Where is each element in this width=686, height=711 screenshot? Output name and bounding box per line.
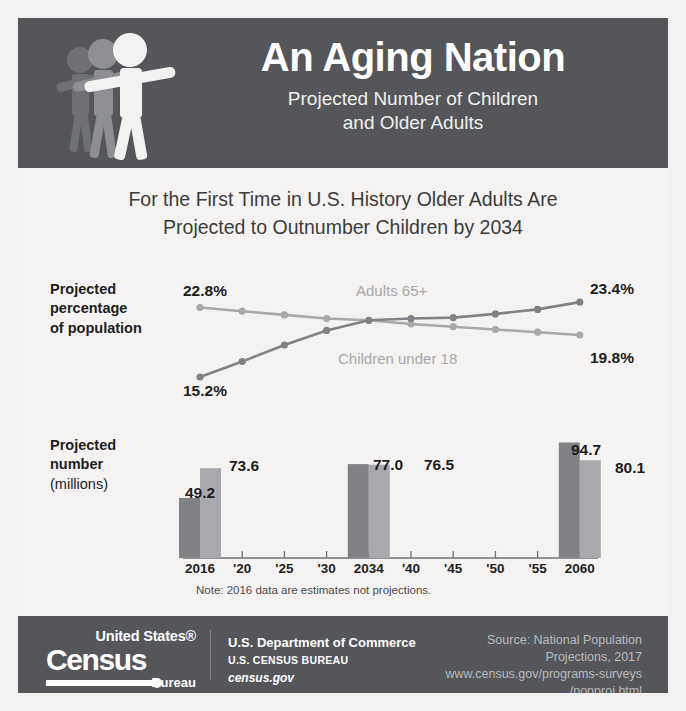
bar-label-1: Projected — [50, 436, 190, 455]
source-line-3: www.census.gov/programs-surveys — [445, 666, 642, 683]
logo-census-wordmark: Census — [46, 645, 196, 675]
x-tick-label-2060: 2060 — [550, 561, 610, 576]
subtitle-line-1: Projected Number of Children — [178, 87, 648, 111]
line-data-point — [196, 373, 203, 380]
line-data-point — [492, 310, 499, 317]
line-label-3: of population — [50, 319, 180, 338]
line-data-point — [239, 308, 246, 315]
headline-line-2: Projected to Outnumber Children by 2034 — [18, 214, 668, 242]
line-data-point — [281, 311, 288, 318]
bar-chart-section: Projected number (millions) 49.2 73.6 77… — [18, 418, 668, 588]
bar-value-2060-children: 80.1 — [615, 459, 645, 477]
line-data-point — [281, 341, 288, 348]
line-data-point — [365, 317, 372, 324]
line-data-point — [534, 329, 541, 336]
bar-2060-adults — [559, 443, 580, 559]
series-label-children: Children under 18 — [338, 350, 457, 367]
logo-bar-icon — [46, 680, 158, 686]
bar-value-2016-children: 73.6 — [229, 457, 259, 475]
bar-2016-adults — [179, 498, 200, 558]
logo-united-states: United States® — [46, 629, 196, 644]
line-chart-axis-label: Projected percentage of population — [50, 280, 180, 338]
bar-label-3: (millions) — [50, 475, 190, 494]
children-start-value: 15.2% — [183, 382, 227, 400]
line-data-point — [492, 326, 499, 333]
chart-note: Note: 2016 data are estimates not projec… — [196, 584, 431, 596]
footer-banner: United States® Census Bureau U.S. Depart… — [18, 616, 668, 693]
title-block: An Aging Nation Projected Number of Chil… — [178, 36, 648, 136]
bar-label-2: number — [50, 455, 190, 474]
line-data-point — [196, 304, 203, 311]
dept-census-bureau: U.S. CENSUS BUREAU — [228, 652, 416, 669]
line-data-point — [450, 314, 457, 321]
bar-2034-children — [369, 465, 390, 558]
headline-line-1: For the First Time in U.S. History Older… — [18, 186, 668, 214]
registered-mark-icon: ® — [186, 628, 196, 644]
line-data-point — [323, 315, 330, 322]
census-bureau-logo: United States® Census Bureau — [46, 629, 196, 681]
adults-start-value: 22.8% — [183, 282, 227, 300]
line-chart-section: Projected percentage of population 22.8%… — [18, 266, 668, 406]
line-data-point — [323, 327, 330, 334]
header-banner: An Aging Nation Projected Number of Chil… — [18, 18, 668, 168]
line-data-point — [534, 306, 541, 313]
three-walking-figures-icon — [48, 28, 178, 160]
bar-2016-children — [200, 468, 221, 558]
source-line-1: Source: National Population — [445, 632, 642, 649]
line-label-1: Projected — [50, 280, 180, 299]
footer-divider — [210, 630, 211, 680]
source-line-4: /popproj.html — [445, 683, 642, 693]
dept-census-gov: census.gov — [228, 671, 416, 685]
page-subtitle: Projected Number of Children and Older A… — [178, 87, 648, 136]
bar-chart-axis-label: Projected number (millions) — [50, 436, 190, 494]
bar-value-2060-adults: 94.7 — [571, 441, 601, 459]
line-data-point — [576, 299, 583, 306]
line-data-point — [407, 315, 414, 322]
department-block: U.S. Department of Commerce U.S. CENSUS … — [228, 634, 416, 685]
bar-value-2016-adults: 49.2 — [185, 484, 215, 502]
subtitle-line-2: and Older Adults — [178, 111, 648, 135]
source-block: Source: National Population Projections,… — [445, 632, 642, 693]
children-end-value: 19.8% — [590, 349, 634, 367]
dept-commerce: U.S. Department of Commerce — [228, 634, 416, 652]
logo-bar-and-bureau: Bureau — [46, 677, 196, 688]
page-title: An Aging Nation — [178, 36, 648, 78]
bar-2034-adults — [348, 464, 369, 558]
logo-bureau-text: Bureau — [151, 677, 196, 688]
line-data-point — [239, 358, 246, 365]
line-label-2: percentage — [50, 299, 180, 318]
line-data-point — [576, 331, 583, 338]
bar-value-2034-adults: 77.0 — [373, 456, 403, 474]
adults-end-value: 23.4% — [590, 280, 634, 298]
series-label-adults: Adults 65+ — [356, 282, 427, 299]
bar-value-2034-children: 76.5 — [424, 456, 454, 474]
source-line-2: Projections, 2017 — [445, 649, 642, 666]
infographic-poster: An Aging Nation Projected Number of Chil… — [18, 18, 668, 693]
bar-2060-children — [580, 460, 601, 558]
headline: For the First Time in U.S. History Older… — [18, 186, 668, 241]
line-data-point — [450, 323, 457, 330]
